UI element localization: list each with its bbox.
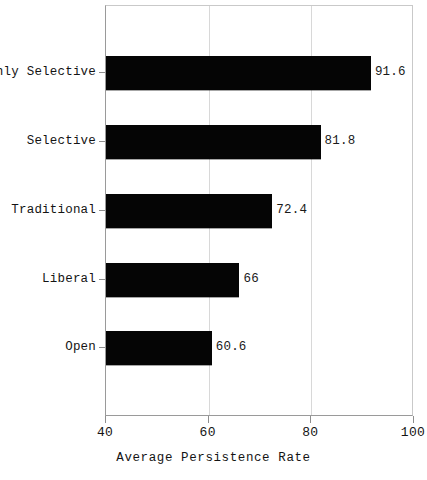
plot-area — [105, 5, 413, 416]
x-tick-label-100: 100 — [401, 426, 425, 439]
x-tick-40 — [105, 416, 106, 423]
x-tick-label-80: 80 — [302, 426, 318, 439]
category-tick-open — [99, 347, 105, 348]
x-tick-label-60: 60 — [200, 426, 216, 439]
bar-liberal — [106, 263, 239, 297]
value-label-highly-selective: 91.6 — [375, 66, 406, 79]
value-label-selective: 81.8 — [325, 135, 356, 148]
category-tick-traditional — [99, 210, 105, 211]
bar-open — [106, 331, 212, 365]
bar-highly-selective — [106, 56, 371, 90]
category-tick-highly-selective — [99, 72, 105, 73]
category-label-liberal: Liberal — [0, 273, 96, 286]
x-tick-60 — [208, 416, 209, 423]
category-label-open: Open — [0, 341, 96, 354]
value-label-liberal: 66 — [243, 273, 258, 286]
bar-chart: 91.6 81.8 72.4 66 60.6 Highly Selective … — [0, 0, 427, 480]
category-label-traditional: Traditional — [0, 204, 96, 217]
x-tick-100 — [413, 416, 414, 423]
x-tick-80 — [310, 416, 311, 423]
value-label-open: 60.6 — [216, 341, 247, 354]
bar-selective — [106, 125, 321, 159]
x-axis-title: Average Persistence Rate — [0, 452, 427, 465]
category-label-selective: Selective — [0, 135, 96, 148]
x-tick-label-40: 40 — [97, 426, 113, 439]
category-tick-liberal — [99, 279, 105, 280]
category-tick-selective — [99, 141, 105, 142]
bar-traditional — [106, 194, 272, 228]
value-label-traditional: 72.4 — [276, 204, 307, 217]
category-label-highly-selective: Highly Selective — [0, 66, 96, 79]
